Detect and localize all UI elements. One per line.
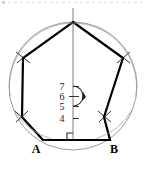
scale-ticks: 7 6 5 4 xyxy=(60,81,80,124)
tick-label-5: 5 xyxy=(60,101,65,112)
regular-heptagon xyxy=(22,22,123,140)
tick-5: 5 xyxy=(60,101,80,112)
heptagon-construction-diagram: 7 6 5 4 A B xyxy=(0,0,147,169)
top-scanline-artifact xyxy=(2,1,145,4)
vertex-label-b: B xyxy=(110,142,118,156)
tick-4: 4 xyxy=(60,113,80,124)
right-angle-marker xyxy=(67,133,73,139)
tick-label-4: 4 xyxy=(60,113,65,124)
vertex-label-a: A xyxy=(32,142,41,156)
